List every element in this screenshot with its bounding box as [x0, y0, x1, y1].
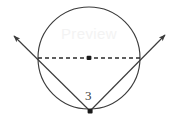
vertex-point-marker [88, 109, 93, 113]
center-point-marker [87, 56, 92, 60]
geometry-figure: Preview 3 [0, 0, 176, 120]
angle-label-3: 3 [85, 89, 92, 102]
left-ray [14, 36, 90, 111]
right-ray [90, 35, 165, 111]
